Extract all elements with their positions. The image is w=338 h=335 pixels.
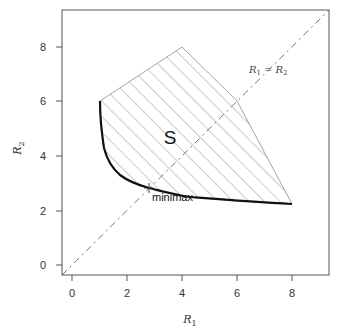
- x-tick-label: 6: [234, 287, 240, 299]
- x-tick-labels: 0 2 4 6 8: [69, 287, 295, 299]
- y-tick-label: 0: [40, 259, 46, 271]
- x-axis: [72, 275, 292, 281]
- y-tick-label: 8: [40, 41, 46, 53]
- y-tick-label: 6: [40, 95, 46, 107]
- x-axis-title: R1: [182, 313, 196, 328]
- x-tick-label: 0: [69, 287, 75, 299]
- diagonal-label: R1=R2: [248, 64, 287, 77]
- risk-set-chart: 0 2 4 6 8 0 2 4 6 8 R1 R2 S minimax R1=R…: [0, 0, 338, 335]
- y-axis-title: R2: [11, 141, 26, 155]
- x-tick-label: 4: [179, 287, 185, 299]
- diagonal-line-r1-eq-r2: [62, 10, 329, 275]
- y-axis: [56, 47, 62, 265]
- y-tick-label: 4: [40, 150, 46, 162]
- x-tick-label: 2: [124, 287, 130, 299]
- y-tick-labels: 0 2 4 6 8: [40, 41, 46, 271]
- x-tick-label: 8: [289, 287, 295, 299]
- minimax-label: minimax: [152, 191, 193, 203]
- y-tick-label: 2: [40, 205, 46, 217]
- region-label-s: S: [164, 127, 177, 148]
